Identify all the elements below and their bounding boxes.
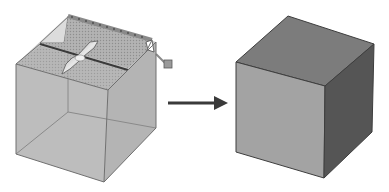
cube-after: [236, 16, 374, 178]
transform-arrow-icon: [168, 96, 228, 110]
drag-knob-handle[interactable]: [164, 60, 172, 68]
manipulator-plane-light: [40, 17, 68, 43]
cube-before: [16, 16, 172, 182]
diagram-canvas: Extrude/shell operation: translucent cub…: [0, 0, 389, 192]
